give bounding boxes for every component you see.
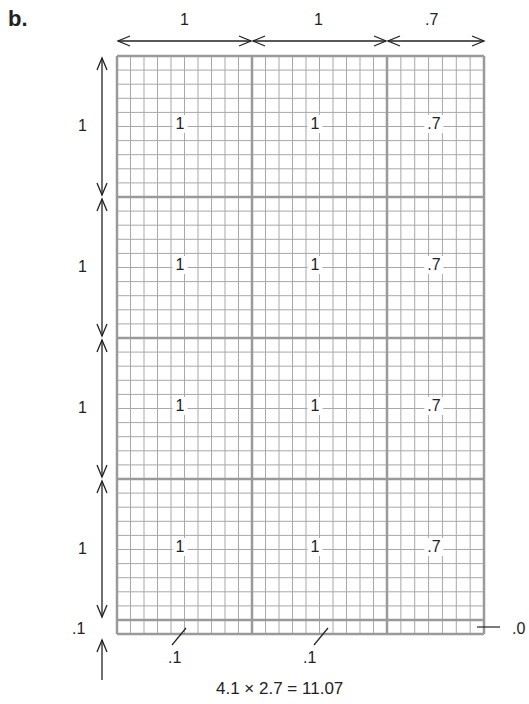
corner-strip-label: .0 [512,621,525,637]
cell-label-r2c1: 1 [173,256,188,274]
top-dimension-3: .7 [425,12,438,28]
side-dimension-2: 1 [78,259,87,275]
cell-label-r3c2: 1 [308,397,323,415]
cell-label-r4c2: 1 [308,538,323,556]
equation: 4.1 × 2.7 = 11.07 [216,680,343,697]
cell-label-r1c3: .7 [424,115,443,133]
area-model-grid [0,0,529,704]
top-dimension-2: 1 [314,12,323,28]
bottom-strip-label-1: .1 [168,650,181,666]
cell-label-r4c1: 1 [173,538,188,556]
cell-label-r2c3: .7 [424,256,443,274]
cell-label-r4c3: .7 [424,538,443,556]
side-dimension-5: .1 [72,621,85,637]
bottom-strip-label-2: .1 [303,650,316,666]
side-dimension-3: 1 [78,400,87,416]
side-dimension-1: 1 [78,118,87,134]
side-dimension-4: 1 [78,541,87,557]
cell-label-r1c2: 1 [308,115,323,133]
cell-label-r3c1: 1 [173,397,188,415]
top-dimension-1: 1 [180,12,189,28]
cell-label-r3c3: .7 [424,397,443,415]
cell-label-r1c1: 1 [173,115,188,133]
cell-label-r2c2: 1 [308,256,323,274]
